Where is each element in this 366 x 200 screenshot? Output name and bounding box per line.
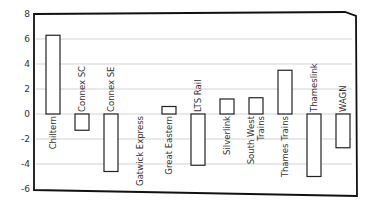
bar [278,70,292,114]
bar [220,99,234,114]
bar-chart: 86420-2-4-6 ChilternConnex SCConnex SEGa… [0,0,366,200]
category-label: Connex SE [106,67,116,113]
y-tick-label: 6 [24,34,30,44]
category-label: WAGN [338,85,348,112]
category-label: Chiltern [48,116,58,149]
y-tick-label: 0 [24,109,30,119]
bar [191,114,205,165]
y-tick-label: 8 [24,9,30,19]
category-label: LTS Rail [193,79,203,112]
category-label: Gatwick Express [135,115,145,186]
bar [162,107,176,115]
category-label: Connex SC [77,66,87,112]
bar [46,35,60,114]
bar [336,114,350,148]
category-label: Great Eastern [164,116,174,175]
category-label: Silverlink [222,116,232,155]
y-axis-ticks: 86420-2-4-6 [21,9,30,194]
bar [307,114,321,177]
y-tick-label: -4 [21,159,30,169]
bar [104,114,118,172]
category-label: Thameslink [309,63,319,113]
y-tick-label: 4 [24,59,30,69]
y-tick-label: -2 [21,134,30,144]
bar [249,98,263,114]
bar [75,114,89,130]
y-tick-label: -6 [21,184,30,194]
category-label: Thames Trains [280,115,290,178]
category-label: South WestTrains [246,115,266,164]
y-tick-label: 2 [24,84,30,94]
